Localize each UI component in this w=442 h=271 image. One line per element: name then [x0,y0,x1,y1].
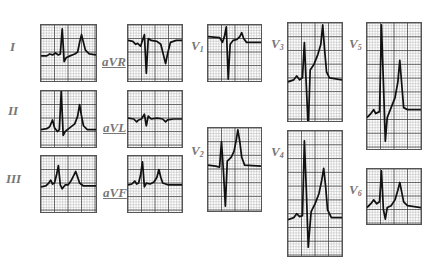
ecg-grid-strip [366,168,422,225]
lead-label: V6 [349,183,362,198]
ecg-waveform [288,23,342,121]
lead-label-text: V [271,144,280,159]
lead-label: aVL [103,121,126,134]
ecg-waveform [128,25,182,81]
lead-label-subscript: 1 [200,45,204,54]
ecg-grid-strip [207,127,262,212]
lead-label: V4 [271,145,284,160]
ecg-grid-strip [40,24,97,82]
lead-label: II [8,104,18,117]
lead-label: V2 [191,144,204,159]
lead-label-text: III [6,171,21,186]
lead-label-text: aVL [103,120,126,135]
ecg-waveform [128,156,182,212]
lead-label-subscript: 5 [358,43,362,52]
lead-label-text: V [271,36,280,51]
lead-label: V1 [191,39,204,54]
lead-label-text: V [191,38,200,53]
ecg-waveform [208,25,261,81]
ecg-waveform [367,23,421,149]
lead-label-subscript: 6 [358,189,362,198]
lead-label-subscript: 4 [280,151,284,160]
ecg-waveform [41,25,96,81]
ecg-grid-strip [40,155,97,213]
lead-label-text: V [349,36,358,51]
ecg-grid-strip [127,155,183,213]
ecg-waveform [41,91,96,147]
ecg-waveform [288,131,342,256]
lead-label-text: I [10,39,15,54]
lead-label-text: aVF [103,185,127,200]
lead-label-text: aVR [102,54,126,69]
lead-label-subscript: 3 [280,43,284,52]
ecg-grid-strip [40,90,97,148]
ecg-grid-strip [287,130,343,257]
lead-label-text: II [8,103,18,118]
lead-label-text: V [349,182,358,197]
ecg-waveform [41,156,96,212]
lead-label: I [10,40,15,53]
ecg-grid-strip [207,24,262,82]
ecg-waveform [208,128,261,211]
lead-label: V3 [271,37,284,52]
ecg-waveform [367,169,421,224]
ecg-grid-strip [366,22,422,150]
lead-label: aVR [102,55,126,68]
lead-label: III [6,172,21,185]
lead-label: aVF [103,186,127,199]
lead-label: V5 [349,37,362,52]
ecg-grid-strip [287,22,343,122]
lead-label-subscript: 2 [200,150,204,159]
lead-label-text: V [191,143,200,158]
ecg-grid-strip [127,90,183,148]
ecg-grid-strip [127,24,183,82]
ecg-waveform [128,91,182,147]
